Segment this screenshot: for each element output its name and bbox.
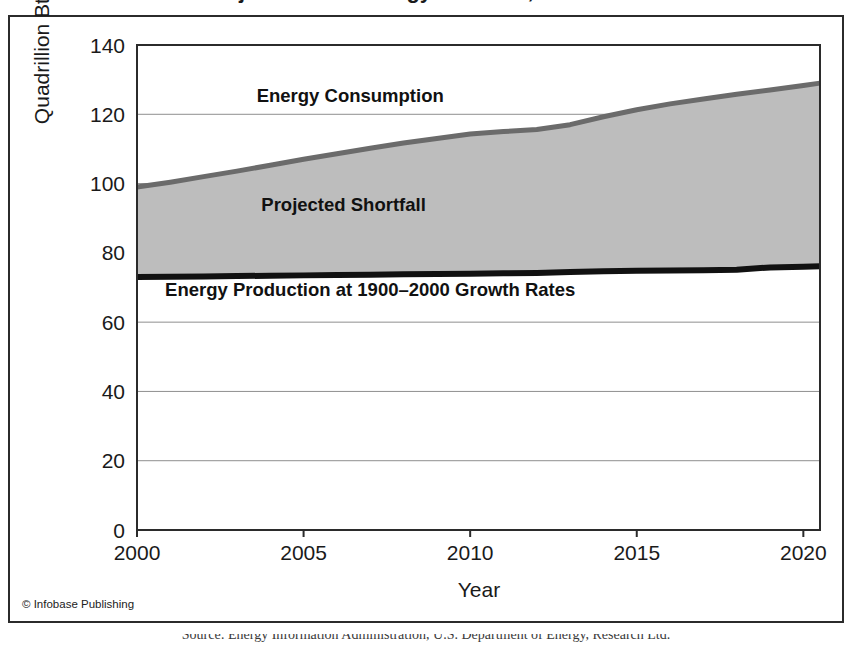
x-axis-tick-label: 2000: [114, 541, 161, 564]
chart-annotation-label: Energy Production at 1900–2000 Growth Ra…: [165, 279, 575, 300]
chart-annotation-label: Energy Consumption: [257, 85, 444, 106]
chart-canvas: 02040608010012014020002005201020152020En…: [0, 0, 852, 645]
y-axis-tick-label: 0: [113, 519, 125, 542]
figure-caption-cutoff: Source: Energy Information Administratio…: [0, 634, 852, 645]
y-axis-tick-label: 100: [90, 172, 125, 195]
x-axis-title: Year: [137, 578, 821, 602]
y-axis-tick-label: 20: [102, 449, 125, 472]
y-axis-tick-label: 120: [90, 103, 125, 126]
y-axis-tick-label: 40: [102, 380, 125, 403]
x-axis-tick-label: 2010: [447, 541, 494, 564]
copyright-notice: © Infobase Publishing: [22, 598, 134, 610]
x-axis-tick-label: 2005: [280, 541, 327, 564]
x-axis-tick-label: 2020: [780, 541, 827, 564]
x-axis-tick-label: 2015: [613, 541, 660, 564]
chart-annotation-label: Projected Shortfall: [261, 194, 425, 215]
y-axis-tick-label: 140: [90, 34, 125, 57]
figure-caption-text: Source: Energy Information Administratio…: [0, 634, 852, 643]
y-axis-tick-label: 80: [102, 241, 125, 264]
y-axis-tick-label: 60: [102, 311, 125, 334]
y-axis-title: Quadrillion Btus: [30, 0, 54, 170]
shortfall-area: [137, 83, 820, 277]
